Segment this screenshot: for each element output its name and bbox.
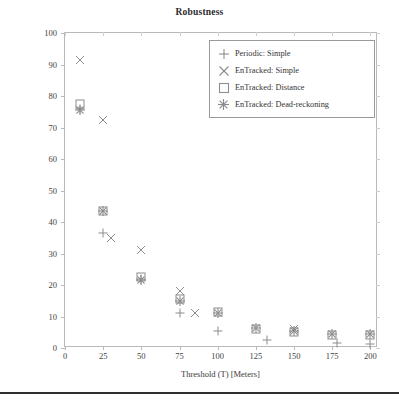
data-point-x	[289, 324, 300, 335]
data-point-x	[136, 245, 147, 256]
x-axis-tick	[294, 346, 295, 350]
x-axis-tick-label: 175	[326, 351, 339, 361]
y-axis-tick-right	[376, 285, 380, 286]
x-axis-tick-label: 50	[137, 351, 146, 361]
x-axis-tick	[256, 346, 257, 350]
y-axis-tick-right	[376, 191, 380, 192]
footer-rule	[0, 392, 399, 394]
x-axis-tick	[332, 346, 333, 350]
x-axis-tick-top	[218, 32, 219, 36]
data-point-star	[250, 322, 262, 334]
y-axis-tick-right	[376, 254, 380, 255]
y-axis-tick	[61, 317, 65, 318]
y-axis-tick	[61, 96, 65, 97]
data-point-square	[289, 327, 300, 338]
data-point-plus	[261, 335, 272, 346]
legend-label: EnTracked: Distance	[233, 83, 305, 92]
y-axis-tick-label: 20	[49, 280, 58, 290]
y-axis-tick-right	[376, 222, 380, 223]
legend-item[interactable]: Periodic: Simple	[214, 45, 369, 62]
y-axis-tick-label: 40	[49, 217, 58, 227]
y-axis-tick-right	[376, 128, 380, 129]
data-point-plus	[75, 103, 86, 114]
data-point-x	[75, 54, 86, 65]
x-axis-tick-label: 25	[99, 351, 108, 361]
x-axis-tick	[370, 346, 371, 350]
data-point-square	[174, 294, 185, 305]
y-axis-tick-label: 70	[49, 123, 58, 133]
y-axis-tick-right	[376, 65, 380, 66]
y-axis-tick-right	[376, 33, 380, 34]
x-axis-tick	[103, 346, 104, 350]
legend-item[interactable]: EnTracked: Dead-reckoning	[214, 96, 369, 113]
legend-label: EnTracked: Simple	[233, 66, 299, 75]
x-axis-tick-label: 100	[211, 351, 224, 361]
data-point-star	[97, 205, 109, 217]
y-axis-tick-label: 0	[53, 343, 57, 353]
data-point-plus	[98, 228, 109, 239]
y-axis-tick	[61, 254, 65, 255]
y-axis-tick-label: 30	[49, 249, 58, 259]
y-axis-tick	[61, 348, 65, 349]
x-axis-tick-label: 125	[249, 351, 262, 361]
x-axis-tick-top	[370, 32, 371, 36]
data-point-x	[189, 308, 200, 319]
y-axis-tick	[61, 222, 65, 223]
legend-marker-star-icon	[214, 96, 233, 113]
y-axis-tick	[61, 65, 65, 66]
x-axis-tick-top	[65, 32, 66, 36]
x-axis-tick-top	[256, 32, 257, 36]
y-axis-tick-label: 100	[44, 28, 57, 38]
data-point-x	[105, 232, 116, 243]
x-axis-tick	[218, 346, 219, 350]
legend-marker-square-icon	[214, 79, 233, 96]
x-axis-tick	[65, 346, 66, 350]
legend-item[interactable]: EnTracked: Distance	[214, 79, 369, 96]
x-axis-tick-top	[294, 32, 295, 36]
data-point-star	[74, 104, 86, 116]
y-axis-tick-right	[376, 317, 380, 318]
data-point-star	[364, 328, 376, 340]
chart-legend: Periodic: SimpleEnTracked: SimpleEnTrack…	[209, 40, 375, 118]
data-point-x	[174, 286, 185, 297]
y-axis-tick-label: 90	[49, 60, 58, 70]
data-point-star	[288, 325, 300, 337]
x-axis-tick-top	[141, 32, 142, 36]
data-point-square	[136, 272, 147, 283]
y-axis-tick-label: 50	[49, 186, 58, 196]
y-axis-tick-label: 80	[49, 91, 58, 101]
data-point-square	[98, 205, 109, 216]
x-axis-tick-top	[180, 32, 181, 36]
x-axis-tick	[180, 346, 181, 350]
data-point-star	[326, 328, 338, 340]
data-point-square	[75, 98, 86, 109]
data-point-plus	[212, 325, 223, 336]
y-axis-tick	[61, 159, 65, 160]
y-axis-tick-label: 60	[49, 154, 58, 164]
legend-marker-x-icon	[214, 62, 233, 79]
x-axis-tick-top	[332, 32, 333, 36]
data-point-star	[174, 295, 186, 307]
y-axis-tick	[61, 33, 65, 34]
data-point-square	[250, 324, 261, 335]
legend-label: EnTracked: Dead-reckoning	[233, 100, 329, 109]
x-axis-tick-label: 0	[63, 351, 67, 361]
data-point-plus	[174, 308, 185, 319]
x-axis-tick	[141, 346, 142, 350]
y-axis-tick-right	[376, 96, 380, 97]
y-axis-tick	[61, 191, 65, 192]
legend-marker-plus-icon	[214, 45, 233, 62]
data-point-star	[212, 307, 224, 319]
x-axis-tick-label: 200	[364, 351, 377, 361]
x-axis-title: Threshold (T) [Meters]	[64, 369, 377, 379]
y-axis-tick-label: 10	[49, 312, 58, 322]
data-point-square	[365, 330, 376, 341]
x-axis-tick-label: 150	[288, 351, 301, 361]
y-axis-tick-right	[376, 348, 380, 349]
y-axis-tick-right	[376, 159, 380, 160]
legend-label: Periodic: Simple	[233, 49, 291, 58]
data-point-square	[327, 330, 338, 341]
data-point-star	[135, 274, 147, 286]
legend-item[interactable]: EnTracked: Simple	[214, 62, 369, 79]
x-axis-tick-top	[103, 32, 104, 36]
